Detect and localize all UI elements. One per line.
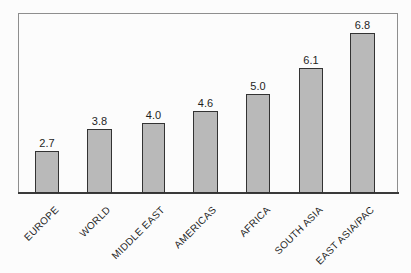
bar-value-label: 2.7 <box>22 137 72 149</box>
bar <box>142 123 165 193</box>
bar-value-label: 5.0 <box>233 80 283 92</box>
bar-value-label: 6.8 <box>338 19 388 31</box>
x-axis-label: AFRICA <box>237 204 272 239</box>
bar-value-label: 4.6 <box>181 97 231 109</box>
bar <box>246 94 270 193</box>
chart-canvas: 2.73.84.04.65.06.16.8 EUROPEWORLDMIDDLE … <box>0 0 411 273</box>
x-axis-label: SOUTH ASIA <box>272 204 324 256</box>
bar <box>193 111 218 193</box>
bar-value-label: 3.8 <box>75 115 125 127</box>
bar <box>87 129 112 193</box>
x-axis-label: WORLD <box>78 204 113 239</box>
x-axis-label: EUROPE <box>22 204 61 243</box>
x-axis-label: AMERICAS <box>172 204 218 250</box>
bar <box>350 33 375 193</box>
bar <box>299 68 323 193</box>
bar-value-label: 4.0 <box>129 109 179 121</box>
bar <box>35 151 59 193</box>
bar-value-label: 6.1 <box>286 54 336 66</box>
x-axis-label: MIDDLE EAST <box>110 204 167 261</box>
